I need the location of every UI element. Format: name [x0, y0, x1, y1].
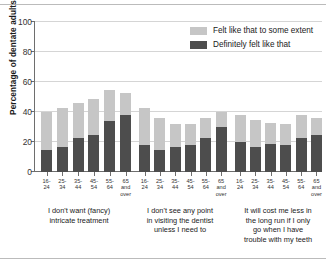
x-tick-mark [145, 172, 146, 176]
x-tick-mark [47, 172, 48, 176]
x-tick-mark [191, 172, 192, 176]
x-tick-label-65-and-over: 65andover [120, 178, 131, 202]
bar-segment-definitely [88, 135, 99, 173]
bar-segment-some-extent [280, 124, 291, 145]
legend-label-definitely: Definitely felt like that [213, 40, 290, 49]
y-tick-label-40: 40 [6, 107, 32, 117]
bar-segment-definitely [120, 115, 131, 172]
x-tick-label-55-64: 55-64 [104, 178, 115, 202]
bar-2-1 [250, 120, 261, 173]
x-tick-label-55-64: 55-64 [296, 178, 307, 202]
bar-segment-definitely [139, 145, 150, 172]
bar-segment-some-extent [57, 108, 68, 147]
bar-segment-some-extent [120, 93, 131, 116]
x-tick-label-65-and-over: 65andover [311, 178, 322, 202]
legend-swatch-icon-definitely [190, 41, 207, 49]
bar-segment-some-extent [296, 115, 307, 138]
bar-segment-definitely [170, 147, 181, 173]
x-tick-mark [286, 172, 287, 176]
bar-0-0 [41, 112, 52, 172]
chart-legend: Felt like that to some extent Definitely… [190, 25, 313, 53]
group-caption-0: I don't want (fancy)intricate treatment [28, 206, 130, 244]
x-tick-label-45-54: 45-54 [185, 178, 196, 202]
bar-1-3 [185, 124, 196, 172]
chart-container: Percentage of dentate adults 02040608010… [0, 0, 326, 262]
bar-1-4 [200, 118, 211, 172]
bar-0-4 [104, 90, 115, 173]
x-tick-mark [126, 172, 127, 176]
bar-segment-definitely [216, 127, 227, 172]
bar-2-0 [235, 115, 246, 172]
x-tick-mark [160, 172, 161, 176]
y-tick-label-20: 20 [6, 137, 32, 147]
bar-group-0 [34, 22, 131, 172]
x-tick-mark [175, 172, 176, 176]
x-tick-mark [94, 172, 95, 176]
bar-segment-some-extent [185, 124, 196, 145]
x-tick-label-35-44: 35-44 [170, 178, 181, 202]
bottom-divider [0, 258, 326, 259]
bar-2-4 [296, 115, 307, 172]
bar-segment-some-extent [265, 123, 276, 144]
bar-segment-definitely [250, 147, 261, 173]
x-tick-label-16-24: 16-24 [235, 178, 246, 202]
bar-segment-some-extent [250, 120, 261, 147]
x-tick-mark [206, 172, 207, 176]
x-tick-mark [316, 172, 317, 176]
bar-0-1 [57, 108, 68, 173]
legend-label-some-extent: Felt like that to some extent [213, 26, 313, 35]
bar-segment-some-extent [216, 112, 227, 127]
bar-2-2 [265, 123, 276, 173]
bar-segment-definitely [280, 145, 291, 172]
bar-0-2 [73, 103, 84, 172]
bar-segment-some-extent [88, 99, 99, 135]
bar-segment-definitely [235, 142, 246, 172]
bar-segment-some-extent [104, 90, 115, 122]
bar-2-3 [280, 124, 291, 172]
legend-item-some-extent: Felt like that to some extent [190, 25, 313, 36]
x-tick-label-25-34: 25-34 [154, 178, 165, 202]
bar-segment-definitely [311, 135, 322, 173]
x-label-group-1: 16-2425-3435-4445-5455-6465andover [131, 178, 226, 202]
x-tick-mark [62, 172, 63, 176]
legend-swatch-icon-some-extent [190, 27, 207, 35]
bar-segment-some-extent [235, 115, 246, 142]
bar-1-2 [170, 124, 181, 172]
x-tick-mark [301, 172, 302, 176]
bar-1-1 [154, 118, 165, 172]
bar-1-5 [216, 112, 227, 172]
bar-0-5 [120, 93, 131, 173]
bar-segment-some-extent [139, 108, 150, 146]
x-tick-label-35-44: 35-44 [73, 178, 84, 202]
bar-segment-definitely [154, 150, 165, 173]
bar-segment-definitely [296, 138, 307, 173]
x-tick-mark [271, 172, 272, 176]
x-tick-label-45-54: 45-54 [280, 178, 291, 202]
x-tick-mark [255, 172, 256, 176]
bar-segment-some-extent [73, 103, 84, 138]
x-tick-mark [240, 172, 241, 176]
bar-segment-definitely [57, 147, 68, 173]
group-captions: I don't want (fancy)intricate treatmentI… [28, 206, 326, 244]
bar-segment-definitely [41, 150, 52, 173]
x-tick-label-16-24: 16-24 [41, 178, 52, 202]
bar-segment-some-extent [41, 112, 52, 150]
bar-1-0 [139, 108, 150, 173]
bar-segment-some-extent [154, 118, 165, 150]
y-tick-label-0: 0 [6, 167, 32, 177]
x-label-group-2: 16-2425-3435-4445-5455-6465andover [227, 178, 322, 202]
x-label-group-0: 16-2425-3435-4445-5455-6465andover [34, 178, 131, 202]
x-tick-mark [78, 172, 79, 176]
y-tick-label-80: 80 [6, 47, 32, 57]
bar-segment-some-extent [200, 118, 211, 138]
group-caption-1: I don't see any pointin visiting the den… [130, 206, 230, 244]
x-tick-label-25-34: 25-34 [250, 178, 261, 202]
bar-segment-definitely [104, 121, 115, 172]
bar-segment-some-extent [311, 118, 322, 135]
y-tick-label-60: 60 [6, 77, 32, 87]
bar-0-3 [88, 99, 99, 173]
x-tick-label-25-34: 25-34 [57, 178, 68, 202]
x-tick-label-55-64: 55-64 [200, 178, 211, 202]
group-caption-2: It will cost me less inthe long run if I… [230, 206, 326, 244]
top-divider [0, 4, 326, 5]
